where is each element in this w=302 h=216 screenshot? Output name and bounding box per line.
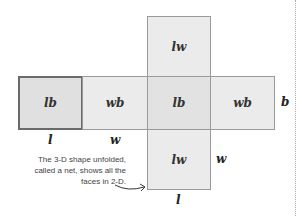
face-left-label: lb [44, 96, 57, 110]
dim-height-b: b [281, 95, 289, 109]
dim-left-l: l [48, 133, 53, 147]
face-center-label: lb [173, 96, 186, 110]
caption: The 3-D shape unfolded, called a net, sh… [18, 154, 126, 187]
page-divider [295, 0, 296, 216]
face-left: lb [18, 76, 83, 130]
face-center: lb [147, 76, 211, 130]
dim-left-middle-w: w [110, 133, 120, 147]
face-left-middle-label: wb [106, 96, 125, 110]
curved-arrow-icon [114, 182, 148, 198]
face-bottom: lw [147, 129, 211, 190]
dim-bottom-l: l [176, 193, 181, 207]
face-right-label: wb [233, 96, 252, 110]
face-left-middle: wb [82, 76, 148, 130]
face-top: lw [147, 16, 211, 77]
face-top-label: lw [172, 40, 187, 54]
dim-bottom-w: w [216, 152, 226, 166]
face-bottom-label: lw [172, 153, 187, 167]
face-right: wb [210, 76, 275, 130]
